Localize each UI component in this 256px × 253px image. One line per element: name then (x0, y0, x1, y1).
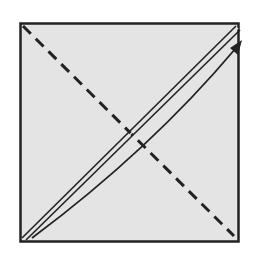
origami-diagram (0, 0, 256, 253)
